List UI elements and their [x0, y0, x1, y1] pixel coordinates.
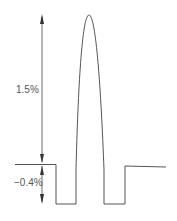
- positive-percent-label: 1.5%: [16, 84, 39, 95]
- arrowhead-baseline-down-icon: [40, 154, 44, 163]
- waveform-line: [15, 15, 166, 204]
- arrowhead-top-icon: [40, 14, 44, 24]
- negative-percent-label: −0.4%: [14, 177, 43, 188]
- arrowhead-bottom-icon: [40, 194, 44, 204]
- diagram-canvas: 1.5% −0.4%: [0, 0, 177, 221]
- arrowhead-baseline-up-icon: [40, 166, 44, 175]
